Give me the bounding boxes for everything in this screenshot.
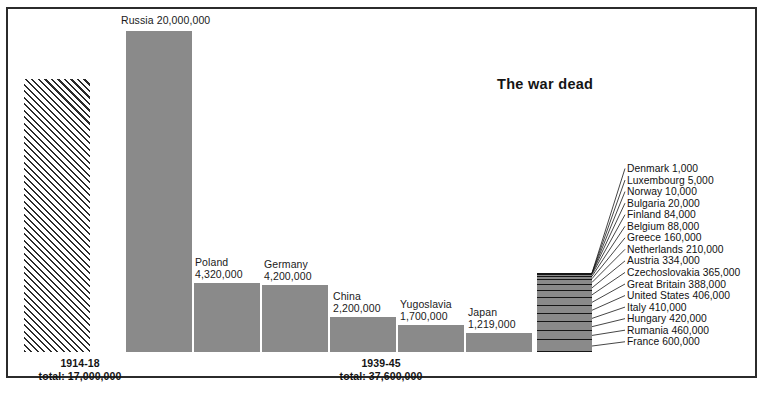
leader-line (592, 342, 625, 346)
annotation-item: France 600,000 (627, 336, 700, 347)
bar-russia (126, 31, 192, 352)
stack-segment (537, 285, 592, 292)
leader-line (592, 203, 625, 273)
bar-label-poland: Poland 4,320,000 (195, 256, 243, 281)
bar-japan (466, 333, 532, 352)
bar-germany (262, 285, 328, 352)
country-annotation-list: Denmark 1,000Luxembourg 5,000Norway 10,0… (627, 0, 765, 394)
war-dead-infographic: Russia 20,000,000 Poland 4,320,000 Germa… (0, 0, 765, 394)
bar-label-china: China 2,200,000 (333, 290, 381, 315)
bar-other-countries-stacked (537, 273, 592, 352)
leader-line (592, 226, 625, 276)
stack-segment (537, 306, 592, 314)
caption-ww2: 1939-45 total: 37,600,000 (286, 357, 476, 383)
annotation-item: Bulgaria 20,000 (627, 198, 700, 209)
bar-label-japan: Japan 1,219,000 (468, 306, 516, 331)
annotation-item: Rumania 460,000 (627, 325, 709, 336)
leader-line (592, 215, 625, 275)
annotation-item: Luxembourg 5,000 (627, 175, 714, 186)
bar-label-germany: Germany 4,200,000 (264, 258, 312, 283)
caption-ww1: 1914-18 total: 17,000,000 (0, 357, 160, 383)
annotation-item: Hungary 420,000 (627, 313, 707, 324)
stack-segment (537, 322, 592, 330)
leader-line (592, 307, 625, 318)
annotation-item: Denmark 1,000 (627, 163, 698, 174)
stack-segment (537, 291, 592, 298)
leader-line (592, 192, 625, 274)
stack-segment (537, 331, 592, 340)
annotation-item: Austria 334,000 (627, 255, 700, 266)
bar-china (330, 317, 396, 352)
annotation-item: Italy 410,000 (627, 302, 687, 313)
annotation-item: Netherlands 210,000 (627, 244, 724, 255)
leader-line (592, 319, 625, 327)
bar-ww1-total (24, 79, 90, 352)
bar-yugoslavia (398, 325, 464, 352)
stack-segment (537, 298, 592, 306)
chart-plot-area: Russia 20,000,000 Poland 4,320,000 Germa… (0, 0, 765, 394)
bar-label-russia: Russia 20,000,000 (121, 14, 210, 26)
bar-poland (194, 283, 260, 352)
annotation-item: Greece 160,000 (627, 232, 702, 243)
leader-line (592, 180, 625, 273)
leader-line (592, 272, 625, 294)
leader-line (592, 284, 625, 302)
leader-line (592, 296, 625, 311)
leader-line (592, 169, 625, 274)
leader-line (592, 261, 625, 288)
annotation-item: Czechoslovakia 365,000 (627, 267, 740, 278)
annotation-item: Finland 84,000 (627, 209, 696, 220)
leader-line (592, 330, 625, 335)
leader-line (592, 238, 625, 279)
bar-label-yugoslavia: Yugoslavia 1,700,000 (400, 298, 452, 323)
annotation-item: Belgium 88,000 (627, 221, 699, 232)
stack-segment (537, 314, 592, 322)
annotation-item: Norway 10,000 (627, 186, 697, 197)
annotation-item: United States 406,000 (627, 290, 730, 301)
leader-line (592, 249, 625, 282)
chart-title: The war dead (497, 76, 593, 92)
annotation-item: Great Britain 388,000 (627, 279, 726, 290)
stack-segment (537, 340, 592, 352)
